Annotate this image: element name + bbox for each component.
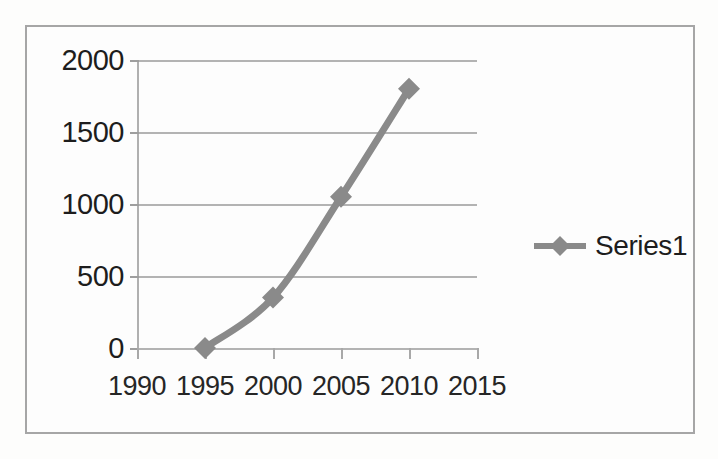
x-axis-label-2015: 2015 bbox=[448, 371, 506, 402]
legend: Series1 bbox=[532, 232, 687, 260]
y-axis-label-0: 0 bbox=[108, 332, 124, 365]
x-axis-tick-2010 bbox=[409, 348, 411, 359]
y-axis-label-1000: 1000 bbox=[61, 188, 124, 221]
x-axis-tick-2005 bbox=[341, 348, 343, 359]
plot-area: 0500100015002000 19901995200020052010201… bbox=[137, 60, 477, 348]
legend-entry-label: Series1 bbox=[595, 232, 687, 260]
x-axis-label-1995: 1995 bbox=[176, 371, 234, 402]
x-axis-label-2000: 2000 bbox=[244, 371, 302, 402]
x-axis-label-2005: 2005 bbox=[312, 371, 370, 402]
chart-frame: 0500100015002000 19901995200020052010201… bbox=[25, 25, 695, 434]
y-axis-label-1500: 1500 bbox=[61, 116, 124, 149]
series-plot bbox=[137, 60, 477, 348]
x-axis-tick-1990 bbox=[137, 348, 139, 359]
y-axis-label-500: 500 bbox=[77, 260, 124, 293]
x-axis-tick-2000 bbox=[273, 348, 275, 359]
gridline-y-0 bbox=[137, 348, 477, 350]
y-axis-label-2000: 2000 bbox=[61, 44, 124, 77]
series-line-Series1 bbox=[205, 89, 409, 348]
x-axis-label-1990: 1990 bbox=[108, 371, 166, 402]
legend-marker-diamond-icon bbox=[532, 233, 588, 259]
x-axis-label-2010: 2010 bbox=[380, 371, 438, 402]
x-axis-tick-2015 bbox=[477, 348, 479, 359]
